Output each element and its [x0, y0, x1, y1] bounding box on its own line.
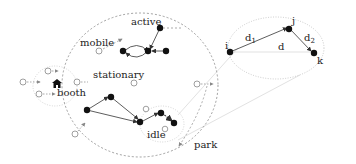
node-entering — [72, 131, 78, 137]
label-booth: booth — [57, 87, 86, 98]
node-stationary-1 — [74, 79, 80, 85]
label-park: park — [194, 139, 218, 150]
label-d1: d1 — [245, 32, 256, 45]
node-exit-right — [194, 81, 200, 87]
label-node-j: j — [291, 15, 295, 26]
active-group — [120, 25, 182, 57]
label-active: active — [131, 16, 161, 27]
node-active-right — [163, 48, 169, 54]
label-node-k: k — [317, 55, 324, 66]
node-stationary-2 — [131, 80, 137, 86]
node-mobile — [96, 48, 102, 54]
booth-group — [20, 68, 62, 97]
label-d2: d2 — [304, 32, 315, 45]
zoom-projection-lines — [178, 48, 300, 140]
label-idle: idle — [147, 129, 166, 140]
inset-zoom-area — [228, 17, 324, 79]
label-mobile: mobile — [80, 37, 114, 48]
label-node-i: i — [225, 40, 228, 51]
node-active-center — [145, 48, 151, 54]
label-d: d — [278, 41, 285, 52]
label-stationary: stationary — [93, 69, 145, 80]
mobility-diagram: active mobile stationary booth idle park… — [0, 0, 356, 164]
idle-group — [84, 94, 177, 132]
node-active-left — [120, 48, 126, 54]
